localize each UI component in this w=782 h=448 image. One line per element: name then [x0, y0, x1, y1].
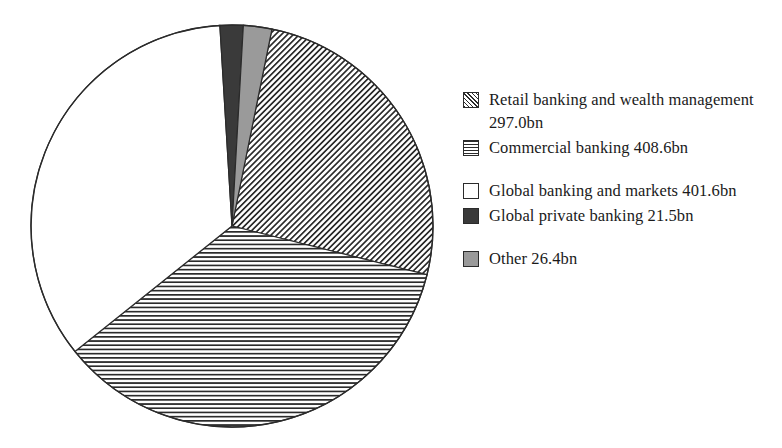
legend-item-label: Other 26.4bn	[489, 247, 577, 270]
chart-legend: Retail banking and wealth management 297…	[463, 88, 775, 272]
gray-swatch-icon	[463, 251, 479, 267]
horizontal-stripe-swatch-icon	[463, 140, 479, 156]
pie-chart-svg	[0, 0, 450, 448]
legend-item[interactable]: Global private banking 21.5bn	[463, 204, 775, 227]
legend-item[interactable]: Retail banking and wealth management 297…	[463, 88, 775, 134]
legend-item-label: Commercial banking 408.6bn	[489, 136, 688, 159]
legend-item-label: Global banking and markets 401.6bn	[489, 179, 737, 202]
legend-item[interactable]: Other 26.4bn	[463, 247, 775, 270]
white-swatch-icon	[463, 183, 479, 199]
diagonal-hatch-swatch-icon	[463, 92, 479, 108]
pie-chart-area	[0, 0, 450, 448]
legend-item-label: Retail banking and wealth management 297…	[489, 88, 775, 134]
legend-item-label: Global private banking 21.5bn	[489, 204, 694, 227]
dark-swatch-icon	[463, 208, 479, 224]
legend-item[interactable]: Global banking and markets 401.6bn	[463, 179, 775, 202]
legend-item[interactable]: Commercial banking 408.6bn	[463, 136, 775, 159]
